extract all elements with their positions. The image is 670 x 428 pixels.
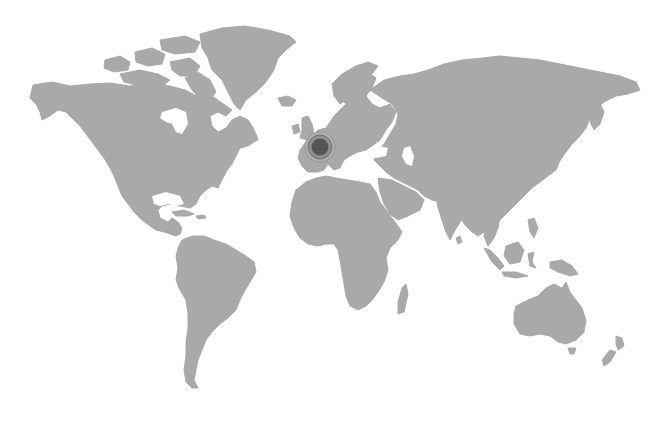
black-sea — [368, 146, 388, 158]
india — [436, 194, 466, 240]
arctic-islands-3 — [160, 36, 200, 54]
marker-dot — [312, 139, 329, 156]
ireland — [292, 124, 300, 134]
location-marker[interactable] — [305, 132, 335, 162]
philippines — [528, 218, 538, 238]
sri-lanka — [456, 236, 462, 244]
arctic-islands-1 — [104, 56, 130, 72]
continents — [30, 26, 640, 388]
north-america — [30, 82, 258, 236]
java — [502, 272, 528, 278]
australia — [514, 282, 586, 344]
tasmania — [568, 348, 576, 354]
arctic-islands-2 — [135, 48, 165, 66]
hispaniola — [196, 215, 206, 219]
madagascar — [398, 284, 408, 314]
south-america — [176, 236, 256, 388]
sumatra — [484, 248, 504, 270]
new-zealand-north — [616, 336, 624, 350]
new-zealand-south — [602, 350, 616, 366]
world-map — [0, 0, 670, 428]
new-guinea — [550, 260, 578, 276]
sulawesi — [528, 252, 536, 268]
iceland — [278, 96, 296, 106]
borneo — [504, 242, 524, 264]
cuba — [172, 210, 194, 216]
